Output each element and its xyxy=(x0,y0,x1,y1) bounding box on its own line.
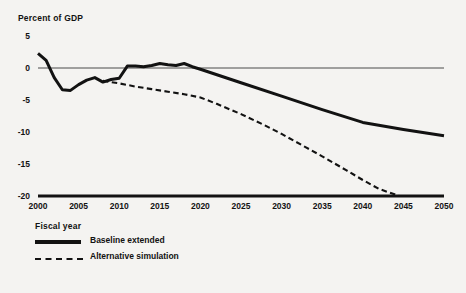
legend-swatch-dashed xyxy=(35,258,83,260)
x-tick-label-2045: 2045 xyxy=(383,201,423,211)
x-tick-label-2025: 2025 xyxy=(221,201,261,211)
y-tick-label-neg20: -20 xyxy=(2,191,30,201)
x-tick-label-2015: 2015 xyxy=(140,201,180,211)
x-tick-label-2000: 2000 xyxy=(18,201,58,211)
legend-label-2: Alternative simulation xyxy=(90,251,179,261)
legend-swatch-solid xyxy=(35,240,81,244)
chart-figure: Percent of GDP 50-5-10-15-20 20002005201… xyxy=(0,0,466,293)
x-tick-label-2040: 2040 xyxy=(343,201,383,211)
y-tick-label-neg10: -10 xyxy=(2,127,30,137)
x-tick-label-2005: 2005 xyxy=(59,201,99,211)
x-axis-title: Fiscal year xyxy=(35,221,81,231)
x-tick-label-2030: 2030 xyxy=(262,201,302,211)
x-tick-label-2050: 2050 xyxy=(424,201,464,211)
plot-area xyxy=(0,0,466,293)
y-tick-label-neg5: -5 xyxy=(2,95,30,105)
legend-label-1: Baseline extended xyxy=(90,235,165,245)
x-tick-label-2020: 2020 xyxy=(180,201,220,211)
x-tick-label-2010: 2010 xyxy=(99,201,139,211)
x-tick-label-2035: 2035 xyxy=(302,201,342,211)
y-tick-label-neg15: -15 xyxy=(2,159,30,169)
y-tick-label-5: 5 xyxy=(2,31,30,41)
series-line-1 xyxy=(38,53,444,136)
series-line-2 xyxy=(103,81,399,196)
y-tick-label-0: 0 xyxy=(2,63,30,73)
